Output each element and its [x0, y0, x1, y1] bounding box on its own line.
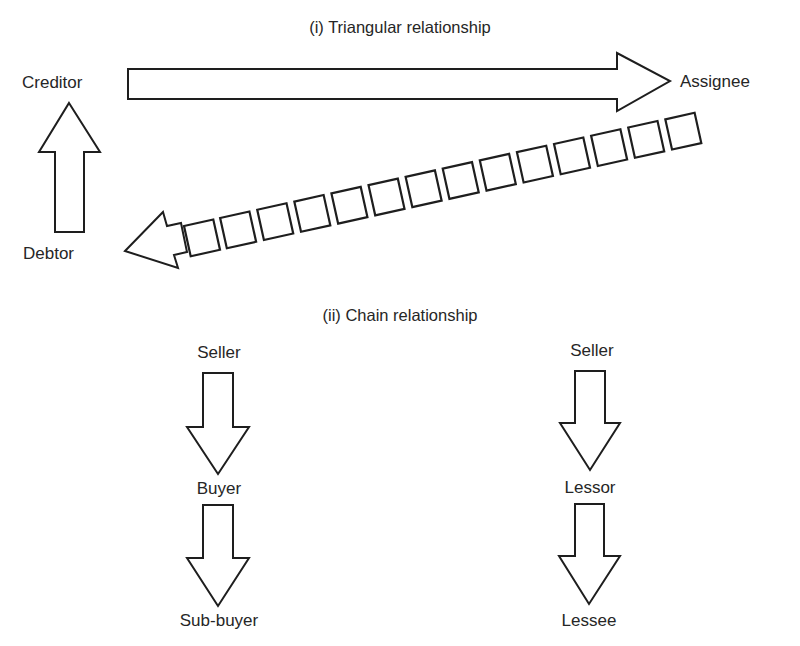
box-segment	[220, 211, 256, 248]
box-segment	[406, 170, 442, 207]
box-segment	[443, 162, 479, 199]
arrow-up-icon-debtor-to-creditor	[39, 103, 100, 232]
box-segment	[554, 137, 590, 174]
box-segment	[257, 203, 293, 240]
node-lessor: Lessor	[564, 478, 615, 497]
box-segment	[517, 146, 553, 183]
node-buyer: Buyer	[197, 479, 242, 498]
node-sub-buyer: Sub-buyer	[180, 611, 259, 630]
box-segment	[480, 154, 516, 191]
node-assignee: Assignee	[680, 72, 750, 91]
arrow-down-icon-seller-to-buyer	[187, 373, 249, 474]
triangular-heading: (i) Triangular relationship	[309, 18, 491, 36]
chain-relationship-section: (ii) Chain relationship Seller Buyer Sub…	[180, 306, 620, 630]
node-creditor: Creditor	[22, 73, 83, 92]
box-segment	[369, 179, 405, 216]
box-segment	[665, 113, 701, 150]
chain-column-sale: Seller Buyer Sub-buyer	[180, 343, 259, 630]
arrow-right-icon-creditor-to-assignee	[128, 53, 670, 111]
box-segment	[591, 129, 627, 166]
node-lessee: Lessee	[562, 611, 617, 630]
box-segment	[628, 121, 664, 158]
box-segment-chain	[184, 113, 701, 256]
triangular-relationship-section: (i) Triangular relationship Creditor Ass…	[22, 18, 750, 268]
chain-column-lease: Seller Lessor Lessee	[559, 341, 620, 630]
relationship-diagram: (i) Triangular relationship Creditor Ass…	[0, 0, 800, 646]
node-seller: Seller	[570, 341, 614, 360]
box-segment	[294, 195, 330, 232]
node-seller: Seller	[197, 343, 241, 362]
arrow-head-icon-to-debtor	[125, 212, 187, 268]
arrow-down-icon-buyer-to-sub-buyer	[187, 505, 249, 606]
node-debtor: Debtor	[23, 244, 74, 263]
box-segment	[184, 220, 220, 257]
arrow-down-icon-lessor-to-lessee	[559, 504, 620, 604]
box-segment	[331, 187, 367, 224]
chain-heading: (ii) Chain relationship	[323, 306, 478, 324]
arrow-down-icon-seller-to-lessor	[560, 371, 620, 470]
dashed-arrow-assignee-to-debtor	[125, 113, 701, 268]
